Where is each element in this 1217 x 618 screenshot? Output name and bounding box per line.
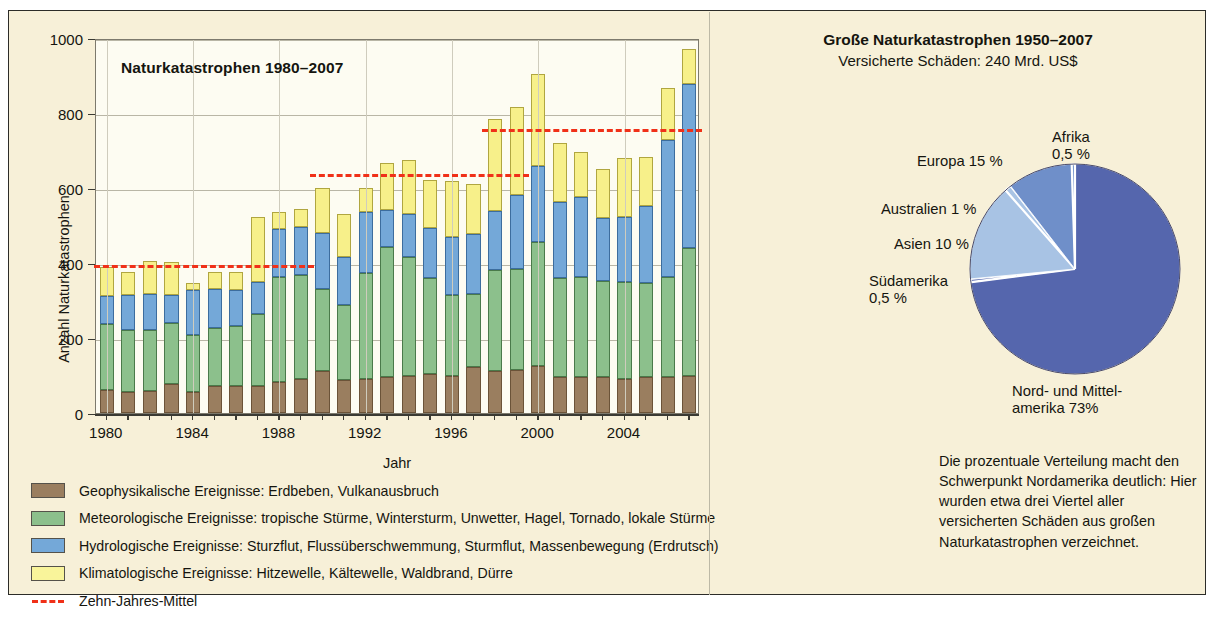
bar-segment-kli [380, 163, 394, 210]
legend-label: Hydrologische Ereignisse: Sturzflut, Flu… [79, 538, 719, 554]
bar-segment-met [380, 247, 394, 376]
bar-segment-met [251, 314, 265, 386]
x-axis-tick-label: 2004 [607, 424, 640, 441]
x-axis-label: Jahr [95, 455, 699, 471]
bar-segment-hyd [143, 294, 157, 330]
y-axis-tick-label: 600 [31, 181, 83, 198]
grid-line-vertical [279, 40, 280, 413]
x-axis-tick-mark [624, 414, 625, 420]
x-axis-tick-label: 2000 [521, 424, 554, 441]
bar-1991 [337, 38, 351, 413]
bar-segment-hyd [596, 218, 610, 281]
bar-1983 [164, 38, 178, 413]
bar-2002 [574, 38, 588, 413]
grid-line-vertical [193, 40, 194, 413]
bar-1995 [423, 38, 437, 413]
bar-1990 [315, 38, 329, 413]
x-axis-tick-mark [322, 414, 323, 420]
bar-2001 [553, 38, 567, 413]
bar-segment-hyd [229, 290, 243, 326]
grid-line-vertical [538, 40, 539, 413]
bar-segment-kli [682, 49, 696, 85]
bar-segment-met [337, 305, 351, 380]
pie-label-afrika: Afrika0,5 % [1052, 129, 1090, 162]
bar-segment-geo [251, 386, 265, 413]
legend-item-geo: Geophysikalische Ereignisse: Erdbeben, V… [31, 481, 691, 500]
bar-segment-kli [294, 209, 308, 227]
x-axis-tick-mark [602, 414, 603, 420]
bar-segment-kli [510, 107, 524, 195]
decade-mean-line-2 [482, 129, 702, 132]
y-axis-tick-mark [88, 114, 95, 115]
bar-segment-met [164, 323, 178, 384]
bar-segment-geo [466, 367, 480, 413]
bar-chart-plot-area [95, 39, 699, 414]
legend-item-hyd: Hydrologische Ereignisse: Sturzflut, Flu… [31, 536, 691, 555]
x-axis-tick-mark [494, 414, 495, 420]
legend-label: Meteorologische Ereignisse: tropische St… [79, 510, 715, 526]
bar-segment-geo [661, 377, 675, 413]
decade-mean-line-0 [94, 265, 314, 268]
x-axis-tick-mark [214, 414, 215, 420]
x-axis-tick-mark [192, 414, 193, 420]
bar-segment-met [596, 281, 610, 378]
bar-segment-hyd [402, 214, 416, 257]
bar-2007 [682, 38, 696, 413]
x-axis-tick-mark [559, 414, 560, 420]
grid-line-vertical [107, 40, 108, 413]
bar-segment-kli [488, 119, 502, 211]
bar-segment-met [423, 278, 437, 375]
bar-1981 [121, 38, 135, 413]
x-axis-tick-mark [278, 414, 279, 420]
x-axis-tick-label: 1988 [262, 424, 295, 441]
x-axis-tick-mark [516, 414, 517, 420]
bar-segment-met [574, 277, 588, 377]
bar-segment-met [402, 257, 416, 376]
bar-segment-kli [402, 160, 416, 214]
y-axis-tick-label: 400 [31, 256, 83, 273]
legend-label: Klimatologische Ereignisse: Hitzewelle, … [79, 565, 513, 581]
pie-label-suedamerika: Südamerika0,5 % [869, 273, 948, 306]
x-axis-tick-mark [106, 414, 107, 420]
bar-segment-kli [661, 88, 675, 140]
x-axis-tick-mark [667, 414, 668, 420]
legend-label: Zehn-Jahres-Mittel [79, 593, 197, 609]
bar-segment-kli [639, 157, 653, 206]
bar-segment-hyd [682, 84, 696, 248]
y-axis-tick-label: 0 [31, 406, 83, 423]
bar-segment-met [229, 326, 243, 386]
bar-1985 [208, 38, 222, 413]
bar-segment-met [315, 289, 329, 371]
decade-mean-line-1 [310, 174, 530, 177]
bar-segment-hyd [164, 295, 178, 323]
x-axis-tick-mark [365, 414, 366, 420]
bar-segment-kli [553, 143, 567, 202]
bar-segment-kli [208, 272, 222, 290]
legend-item-dash: Zehn-Jahres-Mittel [31, 591, 691, 610]
x-axis-tick-mark [343, 414, 344, 420]
y-axis-tick-label: 800 [31, 106, 83, 123]
bar-segment-geo [682, 376, 696, 413]
x-axis-tick-mark [688, 414, 689, 420]
bar-segment-geo [402, 376, 416, 413]
bar-segment-geo [143, 391, 157, 414]
x-axis-tick-mark [300, 414, 301, 420]
bar-segment-met [208, 328, 222, 386]
x-axis-tick-mark [235, 414, 236, 420]
content-panel: Anzahl Naturkatastrophen 100080060040020… [8, 10, 1206, 595]
bar-segment-met [510, 269, 524, 369]
bar-segment-geo [337, 380, 351, 413]
bar-segment-hyd [251, 282, 265, 314]
bar-segment-met [294, 275, 308, 380]
x-axis-tick-mark [537, 414, 538, 420]
x-axis-tick-mark [386, 414, 387, 420]
x-axis-tick-mark [580, 414, 581, 420]
x-axis-tick-mark [149, 414, 150, 420]
pie-label-nordamerika: Nord- und Mittel-amerika 73% [1012, 383, 1122, 416]
bar-segment-kli [466, 184, 480, 235]
x-axis-tick-mark [451, 414, 452, 420]
bar-segment-met [639, 283, 653, 378]
legend-swatch-met-icon [31, 511, 65, 526]
bar-1999 [510, 38, 524, 413]
bar-segment-geo [639, 377, 653, 413]
